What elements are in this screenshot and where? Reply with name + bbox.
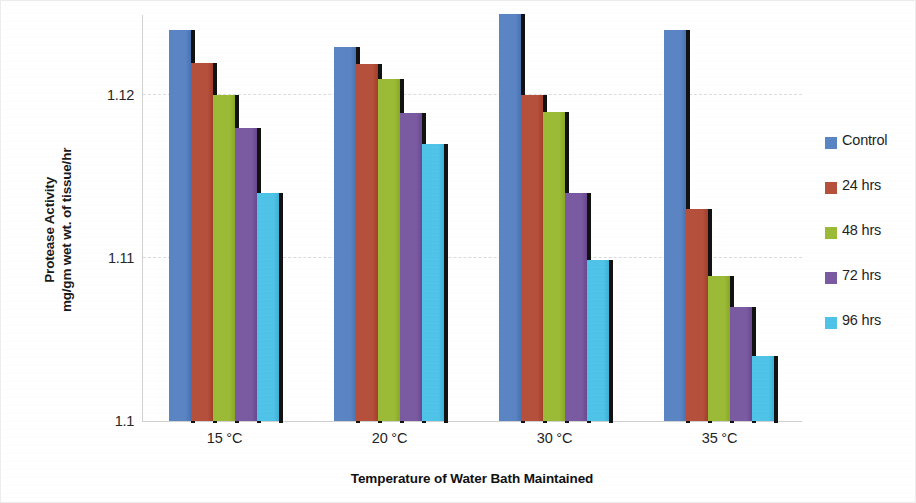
- y-tick-label: 1.12: [74, 87, 134, 103]
- plot-area: [142, 15, 802, 422]
- bar-fill: [400, 113, 422, 421]
- bar[interactable]: [730, 307, 752, 421]
- y-tick-label: 1.1: [74, 413, 134, 429]
- bar[interactable]: [565, 193, 587, 421]
- bar[interactable]: [543, 112, 565, 421]
- bar[interactable]: [213, 95, 235, 421]
- legend-label: 48 hrs: [842, 222, 881, 238]
- bar-shadow: [609, 260, 613, 423]
- bar[interactable]: [686, 209, 708, 421]
- x-axis-title: Temperature of Water Bath Maintained: [142, 471, 802, 486]
- legend-item[interactable]: 72 hrs: [825, 269, 916, 314]
- bar-fill: [565, 193, 587, 421]
- legend-label: 72 hrs: [842, 267, 881, 283]
- legend-label: 24 hrs: [842, 177, 881, 193]
- legend-label: 96 hrs: [842, 312, 881, 328]
- bar-fill: [499, 14, 521, 421]
- bar-fill: [422, 144, 444, 421]
- bar-group: [143, 15, 308, 421]
- bar[interactable]: [257, 193, 279, 421]
- bar-fill: [543, 112, 565, 421]
- bar[interactable]: [521, 95, 543, 421]
- bar[interactable]: [664, 30, 686, 421]
- bar-fill: [752, 356, 774, 421]
- bar[interactable]: [191, 63, 213, 421]
- x-tick-label: 35 °C: [635, 430, 805, 446]
- bar[interactable]: [400, 113, 422, 421]
- legend-item[interactable]: Control: [825, 134, 916, 179]
- legend-swatch-icon: [825, 227, 837, 239]
- bar-fill: [235, 128, 257, 421]
- bar-fill: [587, 260, 609, 421]
- bar-fill: [521, 95, 543, 421]
- x-tick-label: 15 °C: [140, 430, 310, 446]
- bar[interactable]: [752, 356, 774, 421]
- bar-fill: [257, 193, 279, 421]
- legend-swatch-icon: [825, 317, 837, 329]
- bar[interactable]: [235, 128, 257, 421]
- bar[interactable]: [169, 30, 191, 421]
- bar[interactable]: [708, 276, 730, 421]
- y-axis-title: Protease Activity mg/gm wet wt. of tissu…: [42, 80, 76, 380]
- chart-legend: Control24 hrs48 hrs72 hrs96 hrs: [825, 134, 916, 359]
- x-tick-label: 20 °C: [305, 430, 475, 446]
- bar[interactable]: [334, 47, 356, 421]
- bar-fill: [334, 47, 356, 421]
- bar-fill: [356, 64, 378, 421]
- bar[interactable]: [587, 260, 609, 421]
- bar-group: [473, 15, 638, 421]
- legend-swatch-icon: [825, 182, 837, 194]
- bar-shadow: [774, 356, 778, 423]
- bar-group: [308, 15, 473, 421]
- legend-item[interactable]: 24 hrs: [825, 179, 916, 224]
- bar-fill: [191, 63, 213, 421]
- y-tick-label: 1.11: [74, 250, 134, 266]
- bar[interactable]: [422, 144, 444, 421]
- bar-fill: [378, 79, 400, 421]
- bar-fill: [730, 307, 752, 421]
- bar-shadow: [279, 193, 283, 423]
- bar[interactable]: [356, 64, 378, 421]
- bar[interactable]: [499, 14, 521, 421]
- x-tick-label: 30 °C: [470, 430, 640, 446]
- legend-item[interactable]: 96 hrs: [825, 314, 916, 359]
- bar-fill: [213, 95, 235, 421]
- bar-fill: [169, 30, 191, 421]
- legend-swatch-icon: [825, 137, 837, 149]
- legend-item[interactable]: 48 hrs: [825, 224, 916, 269]
- bar-group: [638, 15, 803, 421]
- bar-fill: [664, 30, 686, 421]
- legend-swatch-icon: [825, 272, 837, 284]
- bar-shadow: [444, 144, 448, 423]
- legend-label: Control: [842, 132, 887, 148]
- bar-fill: [686, 209, 708, 421]
- bar-fill: [708, 276, 730, 421]
- chart-page: Protease Activity mg/gm wet wt. of tissu…: [0, 0, 916, 503]
- bar[interactable]: [378, 79, 400, 421]
